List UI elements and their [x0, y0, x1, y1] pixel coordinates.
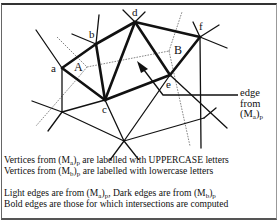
dark-edge	[200, 37, 227, 48]
vertex-label-b: b	[89, 28, 95, 40]
mesh-diagram: a b c d e f A B	[0, 0, 279, 160]
dark-edge	[48, 112, 62, 131]
legend-edges: Light edges are from (Ma)p, Dark edges a…	[4, 188, 278, 209]
light-edge	[169, 51, 190, 146]
legend-line-edges: Light edges are from (Ma)p, Dark edges a…	[4, 188, 278, 199]
bold-edges	[62, 22, 200, 100]
arrow-head-icon	[137, 61, 148, 73]
dark-edge	[105, 100, 124, 141]
legend-line-lowercase: Vertices from (Mb)p are labelled with lo…	[4, 166, 278, 177]
dark-edge	[62, 112, 124, 141]
bold-edge	[96, 44, 105, 100]
vertex-label-f: f	[199, 20, 203, 32]
dark-edge	[62, 100, 105, 112]
bold-edge	[105, 75, 170, 100]
vertex-label-A: A	[74, 60, 83, 74]
dark-edge	[200, 25, 219, 37]
legend-vertices: Vertices from (Ma)p are labelled with UP…	[4, 155, 278, 176]
dark-edge	[200, 37, 201, 148]
vertex-label-d: d	[132, 6, 138, 18]
dark-edge	[36, 30, 62, 68]
vertex-label-B: B	[174, 43, 182, 57]
vertex-label-e: e	[166, 78, 171, 90]
dark-edges	[32, 10, 227, 160]
dark-edge	[96, 15, 99, 44]
dark-edge	[124, 118, 204, 141]
annotation-line-3: (Ma)p	[240, 109, 263, 120]
annotation-line-1: edge	[240, 88, 263, 99]
vertex-label-c: c	[102, 103, 107, 115]
bold-edge	[62, 68, 105, 100]
dark-edge	[32, 101, 62, 112]
legend-line-bold: Bold edges are those for which intersect…	[4, 199, 278, 210]
vertex-label-a: a	[51, 62, 56, 74]
edge-annotation: edge from (Ma)p	[240, 88, 263, 120]
bold-edge	[105, 22, 135, 100]
